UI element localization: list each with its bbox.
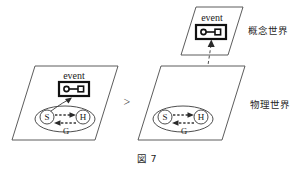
physical-left-plane-group: event S H (12, 66, 118, 140)
conceptual-plane-label: 概念世界 (248, 25, 288, 36)
figure-container: event 概念世界 event (0, 0, 294, 173)
left-event-box (59, 82, 89, 96)
figure-caption: 図 7 (137, 153, 156, 164)
comparison-symbol: > (124, 95, 131, 109)
left-event-label: event (63, 70, 85, 81)
right-hearer-label: H (198, 112, 205, 122)
left-ground-label: G (63, 126, 69, 136)
conceptual-event-label: event (201, 12, 223, 23)
physical-right-plane-group: S H G 物理世界 (138, 66, 290, 140)
physical-plane-label: 物理世界 (250, 99, 290, 110)
left-speaker-label: S (44, 112, 49, 122)
left-hearer-label: H (80, 112, 87, 122)
right-ground-label: G (181, 126, 187, 136)
physical-right-plane-shape (138, 66, 245, 140)
conceptual-plane-group: event 概念世界 (181, 7, 288, 55)
right-speaker-label: S (162, 112, 167, 122)
conceptual-event-box (196, 25, 226, 39)
figure-diagram: event 概念世界 event (0, 0, 294, 173)
